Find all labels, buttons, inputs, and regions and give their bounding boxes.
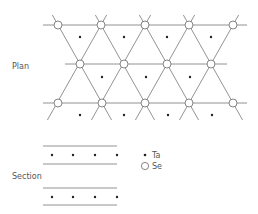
ta-dot-icon xyxy=(144,154,147,157)
ta-atom xyxy=(101,76,103,78)
section-ta-atoms xyxy=(51,154,118,198)
ta-atom xyxy=(116,196,118,198)
ta-atom xyxy=(51,154,53,156)
ta-atom xyxy=(72,196,74,198)
ta-atom xyxy=(79,36,81,38)
ta-atom xyxy=(94,196,96,198)
se-atom xyxy=(54,99,62,107)
se-atom xyxy=(229,21,237,29)
ta-atom xyxy=(72,154,74,156)
se-atom xyxy=(120,60,128,68)
ta-atom xyxy=(123,36,125,38)
section-layer-lines xyxy=(43,146,117,205)
ta-atom xyxy=(210,36,212,38)
ta-atom xyxy=(189,76,191,78)
ta-atom xyxy=(145,76,147,78)
tase2-structure-diagram: Plan Section Ta Se xyxy=(0,0,258,214)
legend: Ta Se xyxy=(141,151,162,171)
ta-atom xyxy=(167,114,169,116)
ta-atom xyxy=(166,36,168,38)
legend-ta-label: Ta xyxy=(151,151,161,160)
se-atom xyxy=(185,21,193,29)
se-atom xyxy=(141,21,149,29)
legend-se-label: Se xyxy=(152,162,162,171)
ta-atom xyxy=(123,114,125,116)
ta-atom xyxy=(51,196,53,198)
ta-atom xyxy=(211,114,213,116)
ta-atom xyxy=(79,114,81,116)
se-atom xyxy=(54,21,62,29)
section-label: Section xyxy=(12,172,42,181)
se-atom xyxy=(163,60,171,68)
se-atom xyxy=(98,99,106,107)
ta-atom xyxy=(94,154,96,156)
se-atom xyxy=(229,99,237,107)
plan-label: Plan xyxy=(12,62,29,71)
se-circle-icon xyxy=(141,162,148,169)
se-atom xyxy=(141,99,149,107)
se-atom xyxy=(76,60,84,68)
se-atom xyxy=(97,21,105,29)
ta-atom xyxy=(116,154,118,156)
se-atom xyxy=(185,99,193,107)
se-atom xyxy=(207,60,215,68)
